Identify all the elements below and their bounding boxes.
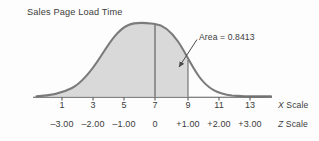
x-axis-scale-name: X Scale (278, 100, 308, 110)
x-tick-label: 13 (245, 100, 255, 110)
x-axis-scale-word: Scale (284, 100, 309, 110)
z-tick-label: +1.00 (176, 119, 199, 129)
z-tick-label: +3.00 (238, 119, 261, 129)
z-tick-label: 0 (152, 119, 157, 129)
x-tick-label: 11 (214, 100, 224, 110)
area-annotation-label: Area = 0.8413 (199, 32, 255, 42)
z-axis-tick-label-row: –3.00 –2.00 –1.00 0 +1.00 +2.00 +3.00 Z … (0, 119, 319, 132)
x-tick-label: 1 (59, 100, 64, 110)
shaded-area-region (37, 23, 189, 96)
z-tick-label: –3.00 (50, 119, 73, 129)
z-tick-label: –2.00 (81, 119, 104, 129)
x-tick-label: 5 (121, 100, 126, 110)
z-tick-label: –1.00 (112, 119, 135, 129)
z-tick-label: +2.00 (207, 119, 230, 129)
x-tick-label: 7 (152, 100, 157, 110)
x-tick-label: 3 (90, 100, 95, 110)
x-tick-label: 9 (185, 100, 190, 110)
z-axis-scale-name: Z Scale (278, 119, 308, 129)
normal-distribution-figure: Sales Page Load Time Area (0, 0, 319, 141)
z-axis-scale-word: Scale (283, 119, 308, 129)
x-axis-tick-label-row: 1 3 5 7 9 11 13 X Scale (0, 100, 319, 113)
